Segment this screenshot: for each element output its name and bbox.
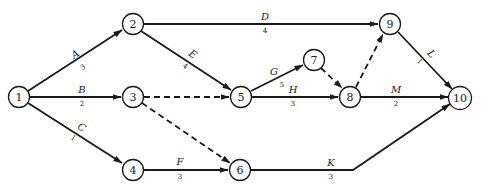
svg-text:1: 1 bbox=[16, 91, 23, 104]
dummy-edge-3-6 bbox=[142, 103, 230, 163]
edge-duration-C: 1 bbox=[69, 134, 77, 143]
edge-label-E: E bbox=[186, 47, 200, 61]
edge-duration-E: 4 bbox=[181, 62, 190, 71]
edge-K bbox=[251, 104, 450, 170]
node-1: 1 bbox=[9, 87, 30, 108]
edge-label-M: M bbox=[390, 84, 402, 95]
edge-duration-G: 5 bbox=[280, 81, 284, 89]
edge-label-G: G bbox=[270, 66, 278, 77]
edge-L bbox=[398, 32, 452, 89]
edge-label-L: L bbox=[425, 47, 439, 60]
svg-text:8: 8 bbox=[347, 91, 354, 104]
network-diagram: A 3 B 2 C 1 D 4 E 4 F 3 G 5 H 3 K 3 L 1 … bbox=[0, 0, 483, 191]
node-3: 3 bbox=[123, 87, 144, 108]
node-10: 10 bbox=[449, 87, 472, 110]
node-5: 5 bbox=[231, 87, 252, 108]
svg-text:9: 9 bbox=[387, 18, 394, 31]
edge-label-C: C bbox=[76, 120, 89, 134]
edge-E bbox=[141, 31, 231, 90]
dummy-edge-8-9 bbox=[356, 34, 383, 87]
svg-text:4: 4 bbox=[130, 164, 137, 177]
node-7: 7 bbox=[304, 50, 325, 71]
svg-text:10: 10 bbox=[453, 92, 467, 105]
node-4: 4 bbox=[123, 160, 144, 181]
dummy-edge-7-8 bbox=[321, 68, 342, 88]
node-2: 2 bbox=[123, 14, 144, 35]
edge-duration-D: 4 bbox=[263, 27, 268, 35]
edge-label-K: K bbox=[326, 157, 335, 168]
node-6: 6 bbox=[230, 160, 251, 181]
node-9: 9 bbox=[380, 14, 401, 35]
edge-label-A: A bbox=[68, 47, 81, 61]
edge-label-D: D bbox=[260, 11, 269, 22]
edge-duration-F: 3 bbox=[178, 173, 182, 181]
svg-text:5: 5 bbox=[238, 91, 245, 104]
edge-duration-A: 3 bbox=[79, 63, 87, 72]
svg-text:7: 7 bbox=[311, 54, 318, 67]
edge-label-F: F bbox=[176, 156, 185, 167]
edge-duration-H: 3 bbox=[291, 100, 295, 108]
svg-text:2: 2 bbox=[130, 18, 137, 31]
edge-duration-M: 2 bbox=[394, 100, 398, 108]
edge-label-H: H bbox=[288, 84, 298, 95]
edge-duration-L: 1 bbox=[415, 57, 424, 66]
node-8: 8 bbox=[340, 87, 361, 108]
edge-duration-B: 2 bbox=[80, 100, 84, 108]
edge-duration-K: 3 bbox=[329, 173, 333, 181]
edge-C bbox=[28, 103, 122, 163]
svg-text:3: 3 bbox=[130, 91, 137, 104]
edge-label-B: B bbox=[77, 84, 85, 95]
svg-text:6: 6 bbox=[237, 164, 244, 177]
